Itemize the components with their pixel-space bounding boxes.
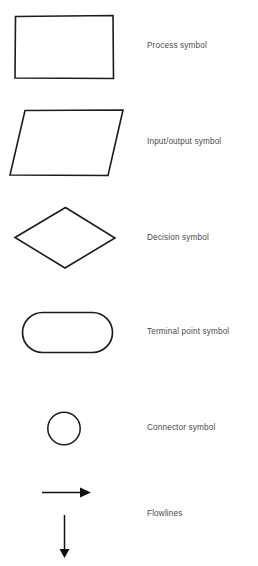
connector-symbol-shape — [0, 380, 140, 470]
legend-label-flowlines: Flowlines — [147, 509, 182, 519]
connector-circle-icon — [0, 380, 140, 470]
decision-diamond-icon — [0, 190, 140, 285]
legend-row-decision: Decision symbol — [0, 190, 258, 285]
legend-label-input-output: Input/output symbol — [147, 137, 221, 147]
legend-row-input-output: Input/output symbol — [0, 100, 258, 190]
legend-label-decision: Decision symbol — [147, 233, 209, 243]
legend-label-process: Process symbol — [147, 41, 207, 51]
process-symbol-shape — [0, 0, 140, 100]
input-output-parallelogram-icon — [0, 100, 140, 190]
terminal-point-symbol-shape — [0, 285, 140, 380]
legend-label-connector: Connector symbol — [147, 423, 215, 433]
decision-symbol-shape — [0, 190, 140, 285]
flowline-arrow-icon — [0, 470, 140, 566]
legend-row-terminal-point: Terminal point symbol — [0, 285, 258, 380]
legend-row-process: Process symbol — [0, 0, 258, 100]
input-output-symbol-shape — [0, 100, 140, 190]
legend-row-flowlines: Flowlines — [0, 470, 258, 566]
flowlines-symbol-shape — [0, 470, 140, 566]
process-rectangle-icon — [0, 0, 140, 100]
flowchart-symbols-legend: Process symbol Input/output symbol Decis… — [0, 0, 258, 566]
legend-label-terminal-point: Terminal point symbol — [147, 327, 229, 337]
terminal-stadium-icon — [0, 285, 140, 380]
legend-row-connector: Connector symbol — [0, 380, 258, 470]
